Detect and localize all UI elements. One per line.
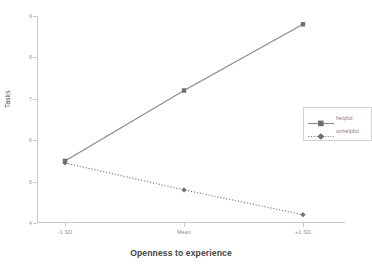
series-layer [37,16,345,223]
legend-label-unhelpful: unhelpful [336,128,359,134]
y-axis-tick [33,223,37,224]
data-point-unhelpful [181,187,186,192]
data-point-helpful [182,88,186,92]
y-axis-tick-label: 9 [29,13,32,19]
legend-entry-unhelpful: unhelpful [308,126,359,136]
x-axis-tick [65,223,66,227]
y-axis-tick-label: 5 [29,179,32,185]
x-axis-tick-label: Mean [177,229,191,235]
legend-key-dotted-line [308,127,334,136]
y-axis-tick-label: 8 [29,54,32,60]
plot-area: 456789 -1 SDMean+1 SD helpful [37,16,345,223]
x-axis-tick [184,223,185,227]
y-axis-tick-label: 7 [29,96,32,102]
legend-label-helpful: helpful [336,115,353,121]
x-axis-tick [303,223,304,227]
y-axis-tick-label: 6 [29,137,32,143]
y-axis-tick-label: 4 [29,220,32,226]
x-axis-tick-label: +1 SD [295,229,311,235]
caption-fragment [0,262,362,270]
y-axis-title: Tasks [4,90,11,108]
x-axis-tick-label: -1 SD [58,229,73,235]
data-point-helpful [301,22,305,26]
legend-key-solid-line [308,114,334,123]
data-point-unhelpful [300,212,305,217]
legend-entry-helpful: helpful [308,113,353,123]
legend: helpful unhelpful [303,107,372,141]
x-axis-title: Openness to experience [0,248,362,258]
